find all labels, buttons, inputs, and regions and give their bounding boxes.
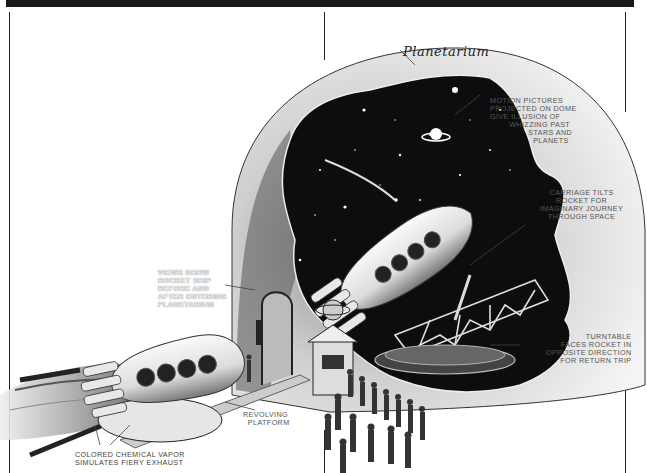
label-views-show: VIEWS SHOW ROCKET SHIP BEFORE AND AFTER … [158,269,227,309]
planetarium-title: Planetarium [403,44,489,59]
turntable [375,345,515,374]
label-turntable: TURNTABLE FACES ROCKET IN OPPOSITE DIREC… [546,333,631,365]
label-motion-pictures: MOTION PICTURES PROJECTED ON DOME GIVE I… [490,97,577,145]
illustration [0,0,647,473]
label-revolving-platform: REVOLVING PLATFORM [243,411,290,427]
entrance-arch [256,292,292,385]
label-colored-vapor: COLORED CHEMICAL VAPOR SIMULATES FIERY E… [75,451,185,467]
label-carriage-tilts: CARRIAGE TILTS ROCKET FOR IMAGINARY JOUR… [540,189,623,221]
